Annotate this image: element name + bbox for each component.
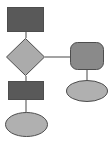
decision[interactable] [7,39,45,76]
flowchart-canvas [0,0,111,145]
rounded-process-right[interactable] [71,43,104,70]
terminator-bottom[interactable] [6,113,48,137]
process-top[interactable] [8,8,44,32]
flowchart-svg [0,0,111,145]
node-layer [6,8,108,137]
process-bottom[interactable] [9,82,44,100]
terminator-right[interactable] [67,81,108,102]
